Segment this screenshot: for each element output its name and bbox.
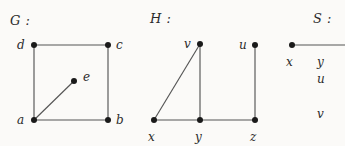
vertex-label-s-y: y bbox=[317, 55, 324, 69]
vertex-label-g-b: b bbox=[116, 113, 124, 127]
vertex-label-h-y: y bbox=[195, 130, 202, 144]
vertex-h-v bbox=[197, 41, 203, 47]
vertex-h-z bbox=[252, 117, 258, 123]
graph-title-g: G : bbox=[10, 13, 30, 28]
vertex-label-g-d: d bbox=[17, 38, 25, 52]
vertex-h-x bbox=[151, 117, 157, 123]
graph-title-h: H : bbox=[150, 11, 171, 26]
vertex-label-s-u: u bbox=[317, 72, 325, 86]
vertex-g-d bbox=[31, 42, 37, 48]
edge-g-a-e bbox=[34, 81, 74, 120]
vertex-h-y bbox=[197, 117, 203, 123]
vertex-g-a bbox=[31, 117, 37, 123]
vertex-g-e bbox=[71, 78, 77, 84]
vertex-label-s-x: x bbox=[286, 55, 293, 69]
figure-canvas: G : d c e a b H : v u x y z S : x y u v bbox=[0, 0, 345, 146]
edge-layer bbox=[0, 0, 345, 146]
graph-title-s: S : bbox=[313, 11, 332, 26]
vertex-s-x bbox=[289, 42, 295, 48]
vertex-label-h-z: z bbox=[250, 130, 256, 144]
vertex-label-g-e: e bbox=[83, 70, 90, 84]
vertex-label-h-x: x bbox=[148, 130, 155, 144]
vertex-g-b bbox=[105, 117, 111, 123]
vertex-h-u bbox=[252, 42, 258, 48]
vertex-label-s-v: v bbox=[317, 107, 324, 121]
vertex-g-c bbox=[105, 42, 111, 48]
edge-h-v-x bbox=[154, 44, 200, 120]
vertex-label-h-v: v bbox=[184, 37, 191, 51]
vertex-label-g-a: a bbox=[17, 113, 24, 127]
vertex-label-g-c: c bbox=[116, 38, 123, 52]
vertex-label-h-u: u bbox=[239, 38, 247, 52]
